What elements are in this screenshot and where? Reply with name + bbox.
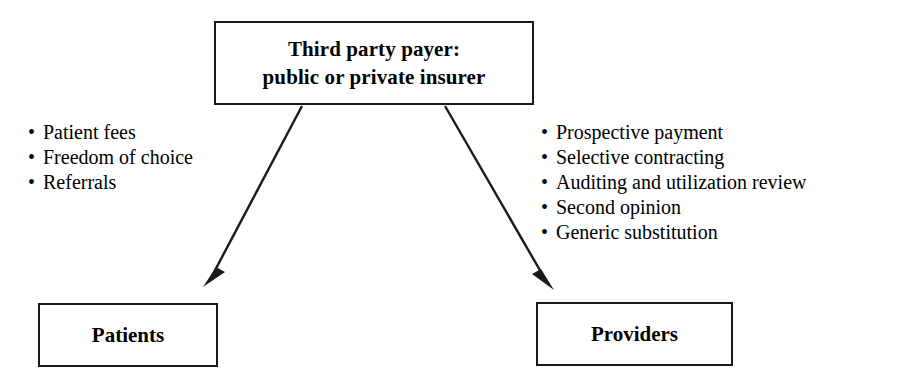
bullet-icon: •	[28, 120, 35, 145]
list-item-label: Generic substitution	[556, 221, 718, 243]
bullet-icon: •	[28, 170, 35, 195]
list-item: • Generic substitution	[541, 220, 807, 245]
providers-box: Providers	[536, 302, 733, 366]
list-item-label: Patient fees	[43, 121, 136, 143]
third-party-payer-box: Third party payer: public or private ins…	[214, 21, 534, 105]
list-item: • Selective contracting	[541, 145, 807, 170]
bullet-icon: •	[541, 120, 548, 145]
list-item: • Auditing and utilization review	[541, 170, 807, 195]
patients-box: Patients	[38, 303, 218, 367]
list-item-label: Prospective payment	[556, 121, 723, 143]
patient-side-bullet-list: • Patient fees • Freedom of choice • Ref…	[28, 120, 193, 195]
payer-to-patients-arrow	[203, 106, 302, 287]
list-item: • Second opinion	[541, 195, 807, 220]
list-item-label: Auditing and utilization review	[556, 171, 807, 193]
patients-label: Patients	[92, 323, 164, 347]
bullet-icon: •	[28, 145, 35, 170]
list-item: • Patient fees	[28, 120, 193, 145]
third-party-payer-label: Third party payer: public or private ins…	[263, 35, 486, 91]
bullet-icon: •	[541, 195, 548, 220]
list-item: • Prospective payment	[541, 120, 807, 145]
list-item-label: Selective contracting	[556, 146, 724, 168]
providers-label: Providers	[591, 322, 678, 346]
list-item-label: Second opinion	[556, 196, 681, 218]
payer-to-providers-arrow-line	[445, 106, 545, 279]
payer-to-providers-arrow	[445, 106, 554, 290]
list-item: • Referrals	[28, 170, 193, 195]
diagram-canvas: Third party payer: public or private ins…	[0, 0, 904, 380]
bullet-icon: •	[541, 220, 548, 245]
payer-to-patients-arrow-line	[212, 106, 302, 276]
list-item-label: Referrals	[43, 171, 116, 193]
payer-to-patients-arrowhead	[203, 267, 225, 287]
payer-to-providers-arrowhead	[532, 269, 554, 290]
bullet-icon: •	[541, 170, 548, 195]
bullet-icon: •	[541, 145, 548, 170]
list-item-label: Freedom of choice	[43, 146, 193, 168]
provider-side-bullet-list: • Prospective payment • Selective contra…	[541, 120, 807, 245]
list-item: • Freedom of choice	[28, 145, 193, 170]
